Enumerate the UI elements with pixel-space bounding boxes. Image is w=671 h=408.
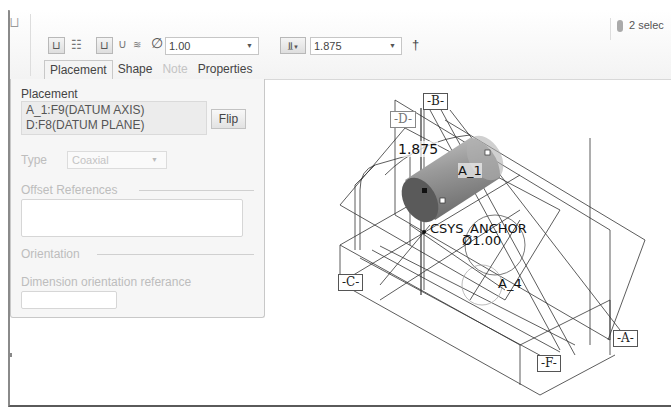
datum-tag-f[interactable]: -F-	[537, 355, 561, 372]
selection-status: 2 selec	[610, 18, 671, 40]
diameter-icon: ∅	[151, 35, 163, 52]
divider	[30, 14, 31, 76]
predefined-rectangle-button[interactable]: ⊔	[96, 37, 113, 54]
diameter-value: 1.00	[169, 40, 190, 52]
divider	[97, 254, 254, 255]
simple-hole-button[interactable]: ⊔	[48, 37, 65, 54]
type-label: Type	[21, 153, 47, 167]
sash-handle[interactable]	[10, 353, 12, 357]
diameter-dimension[interactable]: Ø1.00	[462, 233, 501, 248]
placement-panel: Placement A_1:F9(DATUM AXIS) D:F8(DATUM …	[10, 79, 265, 318]
chevron-down-icon: ▼	[151, 152, 158, 168]
depth-dimension[interactable]: 1.875	[398, 141, 438, 157]
flip-button[interactable]: Flip	[211, 109, 246, 129]
tab-properties[interactable]: Properties	[193, 60, 258, 80]
diameter-combo[interactable]: 1.00 ▼	[165, 37, 259, 55]
tab-placement[interactable]: Placement	[44, 60, 113, 80]
placement-label: Placement	[21, 87, 78, 101]
tab-shape[interactable]: Shape	[113, 60, 158, 80]
axis-label-a1[interactable]: A_1	[458, 163, 482, 178]
divider	[139, 190, 254, 191]
orientation-label: Orientation	[21, 247, 80, 261]
reference-item[interactable]: D:F8(DATUM PLANE)	[26, 118, 202, 133]
standard-hole-icon[interactable]: ☷	[71, 37, 82, 54]
flip-depth-icon[interactable]: †	[412, 36, 419, 53]
sketch-profile-icon[interactable]: ≋	[133, 36, 141, 53]
depth-combo[interactable]: 1.875 ▼	[310, 37, 402, 55]
reference-item[interactable]: A_1:F9(DATUM AXIS)	[26, 103, 202, 118]
datum-tag-d[interactable]: -D-	[390, 111, 416, 128]
type-value: Coaxial	[72, 154, 109, 166]
chevron-down-icon: ▼	[246, 38, 253, 54]
offset-references-label: Offset References	[21, 183, 118, 197]
hole-feature-icon: ⨆	[10, 16, 26, 30]
type-dropdown[interactable]: Coaxial ▼	[67, 151, 167, 169]
dimension-orientation-reference-field[interactable]	[21, 291, 117, 309]
datum-tag-c[interactable]: -C-	[338, 274, 363, 291]
offset-references-list[interactable]	[21, 199, 243, 237]
thermometer-icon	[617, 20, 623, 32]
dashboard-tabs: Placement Shape Note Properties	[44, 60, 257, 80]
depth-option-button[interactable]: ⫫▼	[280, 37, 306, 54]
status-text: 2 selec	[629, 19, 664, 31]
tab-note[interactable]: Note	[157, 60, 192, 80]
placement-references-list[interactable]: A_1:F9(DATUM AXIS) D:F8(DATUM PLANE)	[21, 101, 207, 135]
dimension-orientation-label: Dimension orientation referance	[21, 275, 191, 289]
chevron-down-icon: ▼	[389, 38, 396, 54]
standard-profile-icon[interactable]: ∪	[118, 36, 127, 53]
depth-value: 1.875	[314, 40, 342, 52]
datum-tag-a[interactable]: -A-	[613, 330, 638, 347]
axis-label-a4[interactable]: A_4	[498, 276, 522, 291]
datum-tag-b[interactable]: -B-	[423, 93, 448, 110]
